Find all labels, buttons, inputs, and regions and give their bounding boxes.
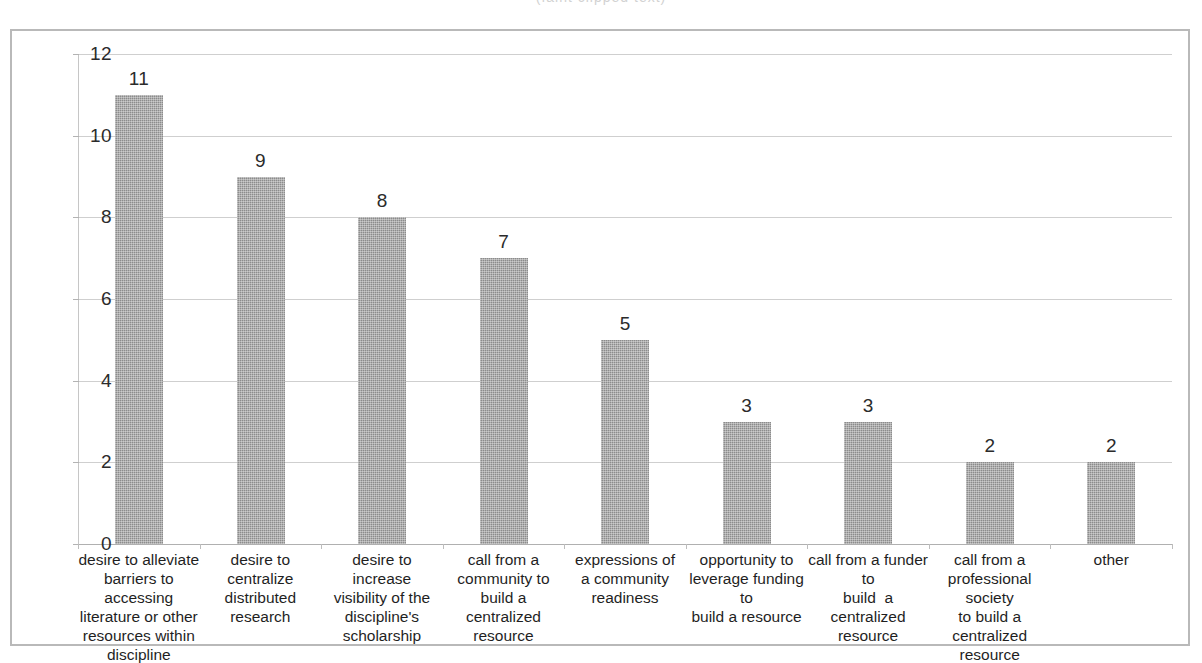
bar[interactable] <box>723 422 771 545</box>
bar-slot: 3 <box>807 54 929 544</box>
x-axis-tick-mark <box>321 544 322 549</box>
bar[interactable] <box>844 422 892 545</box>
x-axis-tick-mark <box>443 544 444 549</box>
x-axis-category-label: opportunity to leverage funding to build… <box>686 550 808 626</box>
bar-value-label: 5 <box>576 313 674 335</box>
x-axis-tick-mark <box>929 544 930 549</box>
x-axis-tick-mark <box>564 544 565 549</box>
x-axis-category-label: expressions of a community readiness <box>564 550 686 607</box>
x-axis-tick-mark <box>1050 544 1051 549</box>
x-axis-tick-mark <box>78 544 79 549</box>
bar-chart-figure: 121086420 1198753322 desire to alleviate… <box>10 29 1190 646</box>
bar-slot: 8 <box>321 54 443 544</box>
bar-slot: 5 <box>564 54 686 544</box>
x-axis-category-label: other <box>1050 550 1172 569</box>
bars-group: 1198753322 <box>78 54 1172 544</box>
gridline <box>78 544 1172 545</box>
bar-slot: 7 <box>443 54 565 544</box>
clipped-caption-above-figure: (faint clipped text) <box>0 0 1202 12</box>
x-axis-category-label: desire to increase visibility of the dis… <box>321 550 443 645</box>
bar-value-label: 2 <box>1062 435 1160 457</box>
bar-value-label: 7 <box>455 231 553 253</box>
x-axis-category-label: call from a community to build a central… <box>443 550 565 645</box>
x-axis-tick-mark <box>686 544 687 549</box>
x-axis-category-labels: desire to alleviate barriers to accessin… <box>78 550 1172 642</box>
x-axis-category-label: desire to centralize distributed researc… <box>200 550 322 626</box>
bar-slot: 11 <box>78 54 200 544</box>
bar-slot: 3 <box>686 54 808 544</box>
x-axis-category-label: desire to alleviate barriers to accessin… <box>78 550 200 663</box>
bar[interactable] <box>480 258 528 544</box>
x-axis-tick-mark <box>200 544 201 549</box>
x-axis-origin-tick-slot <box>78 54 79 544</box>
x-axis-tick-mark <box>1172 544 1173 549</box>
bar-value-label: 3 <box>819 395 917 417</box>
bar-value-label: 11 <box>90 68 188 90</box>
bar-value-label: 8 <box>333 190 431 212</box>
bar-slot: 9 <box>200 54 322 544</box>
bar-value-label: 2 <box>941 435 1039 457</box>
bar[interactable] <box>1087 462 1135 544</box>
bar-slot: 2 <box>929 54 1051 544</box>
plot-area: 121086420 1198753322 <box>68 54 1172 544</box>
x-axis-tick-mark <box>807 544 808 549</box>
bar[interactable] <box>115 95 163 544</box>
bar[interactable] <box>358 217 406 544</box>
bar[interactable] <box>237 177 285 545</box>
bar[interactable] <box>966 462 1014 544</box>
x-axis-category-label: call from a professional society to buil… <box>929 550 1051 663</box>
x-axis-category-label: call from a funder to build a centralize… <box>807 550 929 645</box>
bar-value-label: 3 <box>698 395 796 417</box>
bar[interactable] <box>601 340 649 544</box>
bar-value-label: 9 <box>212 150 310 172</box>
bar-slot: 2 <box>1050 54 1172 544</box>
